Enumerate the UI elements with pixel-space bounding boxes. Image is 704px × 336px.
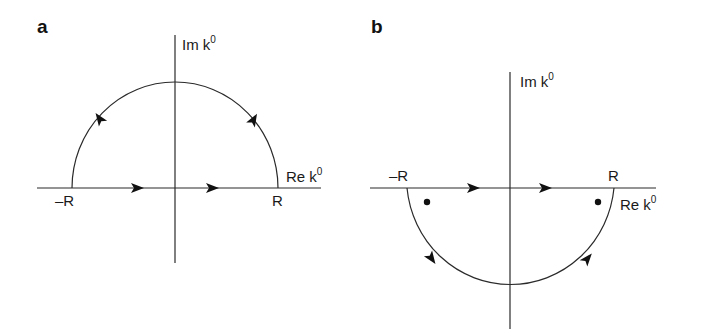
panel-b: b Im k0 Re k0 –R R bbox=[370, 16, 657, 329]
panel-b-label: b bbox=[371, 16, 383, 37]
plus-r-label: R bbox=[608, 167, 619, 184]
arrow-arc-icon bbox=[91, 110, 107, 126]
panel-a-label: a bbox=[37, 16, 48, 37]
contour-diagram: a Im k0 Re k0 –R R b bbox=[0, 0, 704, 336]
re-axis-label: Re k0 bbox=[620, 194, 657, 213]
re-axis-label: Re k0 bbox=[286, 166, 323, 185]
arrow-arc-icon bbox=[580, 250, 596, 266]
minus-r-label: –R bbox=[55, 192, 74, 209]
panel-a: a Im k0 Re k0 –R R bbox=[37, 16, 323, 263]
im-axis-label: Im k0 bbox=[520, 71, 554, 90]
pole-left bbox=[424, 199, 430, 205]
pole-right bbox=[595, 199, 601, 205]
minus-r-label: –R bbox=[389, 167, 408, 184]
plus-r-label: R bbox=[272, 192, 283, 209]
im-axis-label: Im k0 bbox=[182, 34, 216, 53]
